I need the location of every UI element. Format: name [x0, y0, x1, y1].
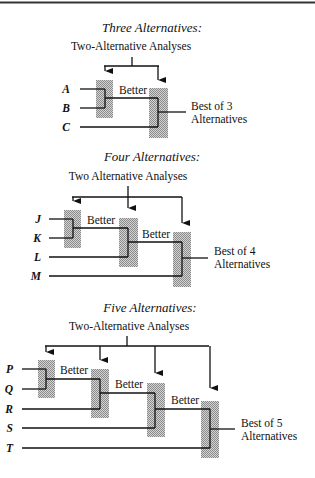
better-label: Better [142, 228, 170, 240]
alternative-label: S [7, 422, 13, 434]
alternative-label: K [32, 232, 42, 244]
alternative-label: C [62, 121, 70, 133]
best-of-label: Best of 4 [214, 245, 256, 257]
section-title: Five Alternatives: [102, 300, 196, 315]
sections-group: Three Alternatives:Two-Alternative Analy… [4, 20, 297, 458]
alternative-label: T [6, 442, 14, 454]
analyses-label: Two-Alternative Analyses [69, 320, 190, 333]
better-label: Better [115, 378, 143, 390]
alternative-label: B [61, 102, 70, 114]
section-4-alternatives: Four Alternatives:Two Alternative Analys… [30, 149, 271, 287]
diagram-canvas: Three Alternatives:Two-Alternative Analy… [0, 0, 315, 478]
alternative-label: P [6, 363, 14, 375]
alternative-label: R [4, 403, 13, 415]
alternatives-label: Alternatives [241, 430, 298, 442]
alternative-label: A [61, 83, 70, 95]
better-label: Better [60, 364, 88, 376]
analyses-label: Two Alternative Analyses [69, 170, 188, 183]
section-title: Four Alternatives: [103, 149, 200, 164]
better-label: Better [87, 214, 115, 226]
comparison-box [147, 383, 165, 437]
alternative-label: L [33, 251, 41, 263]
best-of-label: Best of 5 [241, 417, 283, 429]
section-title: Three Alternatives: [102, 20, 202, 35]
alternatives-label: Alternatives [214, 258, 271, 270]
alternatives-label: Alternatives [191, 113, 248, 125]
section-5-alternatives: Five Alternatives:Two-Alternative Analys… [4, 300, 297, 458]
alternative-label: M [30, 270, 42, 282]
alternative-label: J [34, 213, 42, 225]
section-3-alternatives: Three Alternatives:Two-Alternative Analy… [61, 20, 247, 138]
analyses-label: Two-Alternative Analyses [71, 40, 192, 53]
better-label: Better [119, 84, 147, 96]
alternative-label: Q [5, 383, 13, 395]
better-label: Better [171, 394, 199, 406]
best-of-label: Best of 3 [191, 100, 233, 112]
